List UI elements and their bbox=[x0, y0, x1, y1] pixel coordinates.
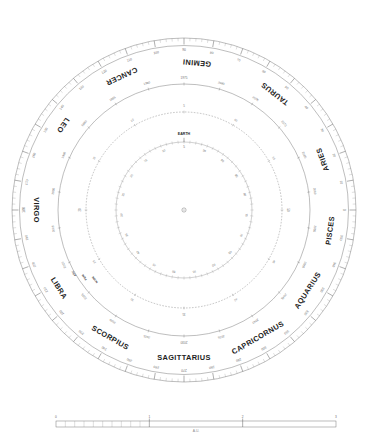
degree-tick-minor bbox=[278, 350, 280, 353]
earth-orbit-label: 75 bbox=[244, 213, 248, 217]
orbit-marker-label: 2080 bbox=[217, 80, 225, 86]
degree-tick-minor bbox=[327, 299, 330, 301]
orbit-marker-label: 2020 bbox=[108, 318, 116, 325]
degree-tick-major bbox=[347, 239, 353, 240]
degree-tick-minor bbox=[283, 347, 285, 350]
degree-tick-minor bbox=[301, 86, 303, 88]
orbit-marker-label: 2010 bbox=[60, 261, 67, 269]
degree-tick-minor bbox=[19, 163, 22, 164]
degree-tick-minor bbox=[321, 309, 324, 311]
orbit-marker-label: 2030 bbox=[180, 340, 187, 344]
degree-tick-label: 170 bbox=[24, 179, 29, 185]
degree-tick-minor bbox=[25, 146, 28, 147]
orbit-marker-label: 2025 bbox=[143, 334, 151, 340]
degree-tick-major bbox=[15, 239, 21, 240]
degree-tick-minor bbox=[29, 284, 32, 285]
degree-tick-minor bbox=[114, 53, 115, 56]
orbit-marker-label: 1975 bbox=[181, 76, 188, 80]
degree-tick-label: 0 bbox=[342, 209, 346, 211]
earth-orbit-tick bbox=[242, 175, 245, 177]
degree-tick-minor bbox=[38, 299, 41, 301]
orbit-marker-tick bbox=[115, 103, 117, 106]
degree-tick-minor bbox=[45, 309, 48, 311]
degree-tick-label: 180 bbox=[22, 207, 26, 213]
orbit-marker-label: 2000 bbox=[51, 187, 56, 195]
scale-bar-tick-label: 1 bbox=[148, 415, 150, 419]
earth-orbit-tick bbox=[149, 268, 151, 271]
earth-orbit-tick bbox=[238, 170, 241, 172]
degree-tick-minor bbox=[27, 140, 30, 141]
annotations-layer: PERINODEASC bbox=[71, 270, 99, 284]
degree-tick-major bbox=[290, 337, 294, 342]
degree-tick-major bbox=[52, 99, 57, 103]
chart-canvas: 1975198019851990199520002005201020152020… bbox=[0, 0, 380, 448]
orbit-marker-tick bbox=[251, 315, 253, 318]
zodiac-sign-label-leo: LEO bbox=[55, 116, 72, 134]
degree-tick-minor bbox=[88, 67, 90, 70]
degree-tick-minor bbox=[131, 371, 132, 374]
orbit-marker-tick bbox=[251, 103, 253, 106]
degree-tick-label: 240 bbox=[101, 345, 108, 351]
degree-tick-major bbox=[154, 41, 155, 47]
degree-tick-major bbox=[340, 267, 346, 269]
degree-tick-minor bbox=[120, 367, 121, 370]
earth-orbit-label: 10 bbox=[161, 148, 166, 153]
degree-tick-major bbox=[98, 353, 101, 359]
degree-tick-label: 260 bbox=[153, 365, 159, 370]
degree-tick-label: 70 bbox=[236, 57, 241, 62]
degree-tick-label: 110 bbox=[126, 57, 132, 63]
orbit-marker-label: 60 bbox=[233, 118, 238, 123]
orbit-marker-label: 5 bbox=[183, 104, 185, 108]
earth-orbit-tick bbox=[124, 243, 127, 245]
earth-orbit-label: 50 bbox=[171, 269, 175, 274]
orbit-marker-tick bbox=[232, 294, 233, 296]
earth-orbit-tick bbox=[242, 243, 245, 245]
orbit-marker-tick bbox=[268, 258, 270, 259]
degree-tick-minor bbox=[231, 45, 232, 48]
degree-tick-minor bbox=[349, 174, 352, 175]
earth-orbit-tick bbox=[127, 248, 130, 250]
degree-tick-label: 130 bbox=[78, 84, 85, 91]
degree-tick-minor bbox=[56, 95, 58, 97]
degree-tick-minor bbox=[309, 323, 311, 325]
degree-tick-label: 100 bbox=[153, 50, 159, 55]
degree-tick-minor bbox=[231, 372, 232, 375]
degree-tick-minor bbox=[336, 135, 339, 136]
degree-tick-minor bbox=[41, 114, 44, 116]
degree-tick-minor bbox=[349, 245, 352, 246]
degree-tick-minor bbox=[288, 74, 290, 77]
degree-tick-major bbox=[311, 316, 316, 320]
sun-center-marker bbox=[182, 208, 186, 212]
degree-tick-minor bbox=[19, 257, 22, 258]
degree-tick-label: 30 bbox=[320, 128, 325, 133]
degree-tick-minor bbox=[83, 347, 85, 350]
degree-tick-minor bbox=[297, 82, 299, 84]
degree-tick-minor bbox=[273, 64, 275, 67]
degree-tick-label: 250 bbox=[126, 357, 133, 363]
degree-tick-minor bbox=[258, 362, 259, 365]
degree-tick-minor bbox=[247, 51, 248, 54]
degree-tick-minor bbox=[324, 114, 327, 116]
degree-tick-major bbox=[125, 48, 127, 54]
orbit-marker-label: 10 bbox=[130, 118, 135, 123]
earth-orbit-label: 40 bbox=[135, 250, 140, 255]
degree-tick-minor bbox=[305, 91, 307, 93]
degree-tick-major bbox=[347, 180, 353, 181]
degree-tick-minor bbox=[137, 45, 138, 48]
degree-tick-minor bbox=[60, 327, 62, 329]
degree-tick-major bbox=[340, 151, 346, 153]
orbit-marker-label: 2005 bbox=[51, 225, 56, 233]
orbit-marker-label: 2050 bbox=[301, 261, 308, 269]
orbit-marker-label: 50 bbox=[286, 208, 290, 212]
degree-tick-minor bbox=[103, 359, 105, 362]
degree-tick-minor bbox=[348, 251, 351, 252]
orbit-marker-label: 35 bbox=[182, 312, 186, 316]
orbit-marker-label: 55 bbox=[271, 156, 276, 161]
degree-tick-minor bbox=[278, 67, 280, 70]
earth-orbit-label: 15 bbox=[143, 158, 148, 163]
degree-tick-minor bbox=[346, 163, 349, 164]
orbit-marker-label: 25 bbox=[92, 259, 97, 264]
degree-tick-minor bbox=[41, 304, 44, 306]
zodiac-sign-label-gemini: GEMINI bbox=[182, 57, 211, 68]
degree-tick-label: 40 bbox=[304, 105, 310, 111]
